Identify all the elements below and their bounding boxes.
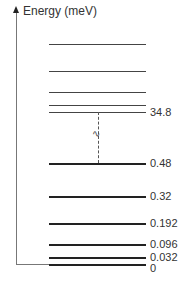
baseline-axis xyxy=(16,264,50,265)
level-value: 0.48 xyxy=(150,158,171,169)
energy-level xyxy=(49,92,146,93)
energy-level xyxy=(49,196,146,198)
level-value: 34.8 xyxy=(150,107,171,118)
energy-level xyxy=(49,44,146,45)
axis-label: Energy (meV) xyxy=(23,4,97,18)
level-value: 0 xyxy=(150,263,156,274)
energy-level xyxy=(49,163,146,165)
energy-level xyxy=(49,71,146,72)
energy-level xyxy=(49,105,146,106)
squiggle-icon: ∿ xyxy=(92,128,100,139)
energy-level xyxy=(49,264,146,266)
energy-level xyxy=(49,244,146,246)
energy-axis xyxy=(16,12,17,265)
arrow-up-icon xyxy=(13,6,19,13)
level-value: 0.096 xyxy=(150,239,178,250)
energy-level xyxy=(49,223,146,225)
level-value: 0.32 xyxy=(150,191,171,202)
level-value: 0.192 xyxy=(150,218,178,229)
energy-level xyxy=(49,257,146,259)
